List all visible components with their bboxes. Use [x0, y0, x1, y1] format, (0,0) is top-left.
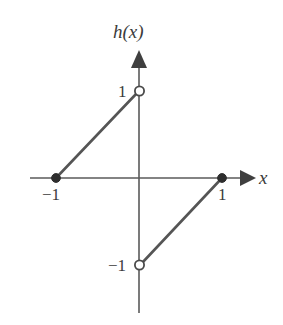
open-point-y-neg1 — [135, 260, 144, 269]
x-tick-label-negative-one: −1 — [42, 186, 60, 203]
closed-point-x-pos1 — [218, 174, 227, 183]
y-tick-label-negative-one: −1 — [108, 257, 126, 274]
y-tick-label-positive-one: 1 — [118, 83, 127, 100]
closed-point-x-neg1 — [52, 174, 61, 183]
segment-left-line — [56, 93, 137, 178]
segment-right-line — [142, 178, 222, 263]
x-axis-arrowhead — [240, 170, 256, 186]
function-graph-figure: h(x) x 1 −1 −1 1 — [0, 0, 283, 325]
y-axis-label: h(x) — [113, 22, 144, 41]
open-point-y-pos1 — [135, 86, 144, 95]
x-tick-label-positive-one: 1 — [218, 186, 227, 203]
y-axis-arrowhead — [131, 50, 147, 68]
graph-canvas — [0, 0, 283, 325]
x-axis-label: x — [259, 168, 267, 187]
